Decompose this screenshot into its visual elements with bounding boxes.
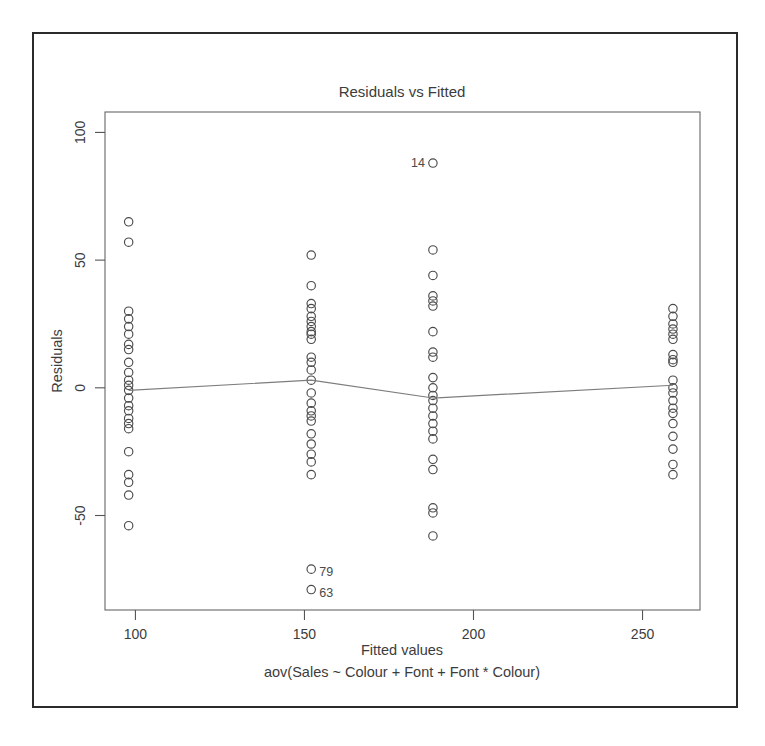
data-point xyxy=(429,509,437,517)
x-axis-label: Fitted values xyxy=(361,642,443,658)
data-point xyxy=(124,424,132,432)
data-point xyxy=(124,491,132,499)
data-point xyxy=(669,409,677,417)
data-point xyxy=(307,251,315,259)
data-point xyxy=(124,238,132,246)
outlier-label-group: 147963 xyxy=(319,156,425,599)
data-point xyxy=(124,218,132,226)
chart-title: Residuals vs Fitted xyxy=(339,83,466,100)
x-tick-label: 250 xyxy=(631,626,655,642)
x-tick-label: 100 xyxy=(124,626,148,642)
data-point xyxy=(307,430,315,438)
outlier-label: 63 xyxy=(319,586,333,600)
data-point-group xyxy=(124,159,677,594)
figure-container: 100150200250 -50050100 147963 Residuals … xyxy=(0,0,765,746)
data-point xyxy=(669,460,677,468)
data-point xyxy=(429,271,437,279)
data-point xyxy=(307,565,315,573)
data-point xyxy=(669,419,677,427)
x-axis-ticks: 100150200250 xyxy=(124,610,655,642)
plot-canvas: 100150200250 -50050100 147963 Residuals … xyxy=(0,0,765,746)
data-point xyxy=(669,445,677,453)
y-tick-label: 100 xyxy=(72,121,88,145)
y-tick-label: 0 xyxy=(72,384,88,392)
data-point xyxy=(429,353,437,361)
data-point xyxy=(307,440,315,448)
data-point xyxy=(307,470,315,478)
plot-region-box xyxy=(105,112,700,610)
data-point xyxy=(124,522,132,530)
data-point xyxy=(429,327,437,335)
outlier-label: 14 xyxy=(411,156,425,170)
data-point xyxy=(429,246,437,254)
data-point xyxy=(429,532,437,540)
y-axis-label: Residuals xyxy=(49,329,65,393)
data-point xyxy=(124,358,132,366)
data-point xyxy=(307,585,315,593)
y-tick-label: -50 xyxy=(72,505,88,525)
x-tick-label: 150 xyxy=(293,626,317,642)
y-tick-label: 50 xyxy=(72,252,88,268)
data-point xyxy=(307,389,315,397)
data-point xyxy=(307,281,315,289)
data-point xyxy=(669,432,677,440)
x-tick-label: 200 xyxy=(462,626,486,642)
lowess-trend-line xyxy=(129,380,673,398)
data-point xyxy=(429,302,437,310)
chart-subtitle: aov(Sales ~ Colour + Font + Font * Colou… xyxy=(264,664,540,680)
data-point xyxy=(669,335,677,343)
data-point xyxy=(429,465,437,473)
y-axis-ticks: -50050100 xyxy=(72,121,105,526)
data-point xyxy=(307,417,315,425)
data-point xyxy=(429,373,437,381)
outlier-label: 79 xyxy=(319,565,333,579)
data-point xyxy=(429,159,437,167)
data-point xyxy=(124,345,132,353)
data-point xyxy=(124,447,132,455)
data-point xyxy=(429,455,437,463)
data-point xyxy=(669,470,677,478)
